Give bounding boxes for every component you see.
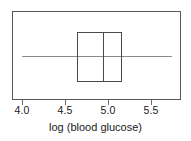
x-axis-title: log (blood glucose) xyxy=(0,120,191,134)
box-rect xyxy=(77,32,122,82)
x-tick-label-3: 5.5 xyxy=(131,104,171,117)
x-tick-label-1: 4.5 xyxy=(45,104,85,117)
x-tick-label-0: 4.0 xyxy=(2,104,42,117)
median-line xyxy=(103,32,105,82)
boxplot-figure: 4.0 4.5 5.0 5.5 log (blood glucose) xyxy=(0,0,191,141)
x-tick-label-2: 5.0 xyxy=(88,104,128,117)
